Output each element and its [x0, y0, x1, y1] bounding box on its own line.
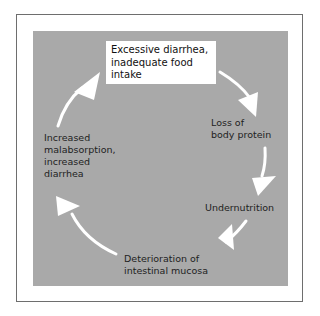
arrowhead-5-icon	[74, 72, 100, 100]
arrowhead-4-icon	[56, 196, 80, 216]
arrow-1-to-2	[220, 72, 250, 98]
arrow-2-to-3	[262, 148, 265, 176]
node-loss-of-body-protein: Loss of body protein	[211, 117, 271, 141]
node-excessive-diarrhea: Excessive diarrhea, inadequate food inta…	[106, 41, 216, 84]
node-increased-malabsorption: Increased malabsorption, increased diarr…	[44, 132, 115, 180]
arrowhead-2-icon	[252, 176, 276, 196]
arrow-4-to-5	[72, 214, 116, 254]
arrowhead-3-icon	[218, 224, 234, 250]
node-deterioration-mucosa: Deterioration of intestinal mucosa	[124, 253, 208, 277]
node-undernutrition: Undernutrition	[205, 202, 274, 214]
